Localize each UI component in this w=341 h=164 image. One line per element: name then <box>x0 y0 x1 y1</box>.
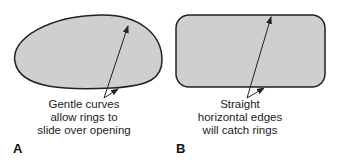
panel-label-a: A <box>13 141 22 156</box>
caption-a-line-1: Gentle curves <box>14 98 154 111</box>
panel-label-b: B <box>176 141 185 156</box>
caption-a-line-3: slide over opening <box>14 124 154 137</box>
caption-b-line-1: Straight <box>180 98 300 111</box>
shape-a-curved-opening <box>15 15 162 89</box>
shape-b-rectangular-opening <box>176 15 325 87</box>
diagram-canvas <box>0 0 341 164</box>
caption-b: Straight horizontal edges will catch rin… <box>180 98 300 137</box>
caption-b-line-2: horizontal edges <box>180 111 300 124</box>
caption-b-line-3: will catch rings <box>180 124 300 137</box>
caption-a-line-2: allow rings to <box>14 111 154 124</box>
caption-a: Gentle curves allow rings to slide over … <box>14 98 154 137</box>
